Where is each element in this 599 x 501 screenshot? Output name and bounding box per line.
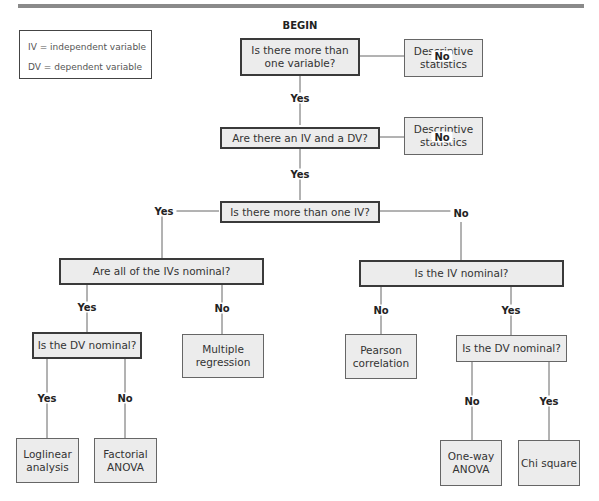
node-iv-and-dv: Are there an IV and a DV? xyxy=(220,127,380,149)
edge-label-q7-no: No xyxy=(461,396,482,407)
result-factorial-anova: Factorial ANOVA xyxy=(94,438,157,483)
result-pearson-correlation: Pearson correlation xyxy=(345,334,417,379)
edge-label-q6-no: No xyxy=(114,393,135,404)
node-all-ivs-nominal: Are all of the IVs nominal? xyxy=(59,258,264,285)
result-one-way-anova: One-way ANOVA xyxy=(440,440,502,486)
edge-label-q2-yes: Yes xyxy=(287,169,312,180)
edge-label-q7-yes: Yes xyxy=(536,396,561,407)
edge-label-q4-yes: Yes xyxy=(74,302,99,313)
edge-label-q3-no: No xyxy=(450,208,471,219)
edge-label-q4-no: No xyxy=(211,303,232,314)
result-multiple-regression: Multiple regression xyxy=(182,334,264,378)
result-loglinear-analysis: Loglinear analysis xyxy=(16,438,79,483)
edge-label-q2-no: No xyxy=(431,132,452,143)
begin-label: BEGIN xyxy=(280,20,321,31)
edge-label-q1-yes: Yes xyxy=(287,93,312,104)
node-more-than-one-variable: Is there more than one variable? xyxy=(240,38,360,76)
edge-label-q3-yes: Yes xyxy=(151,206,176,217)
node-dv-nominal-right: Is the DV nominal? xyxy=(456,335,567,362)
node-more-than-one-iv: Is there more than one IV? xyxy=(220,201,380,223)
edge-label-q5-yes: Yes xyxy=(498,305,523,316)
edge-label-q6-yes: Yes xyxy=(34,393,59,404)
edge-label-q1-no: No xyxy=(431,51,452,62)
edge-label-q5-no: No xyxy=(370,305,391,316)
node-iv-nominal: Is the IV nominal? xyxy=(359,260,564,287)
node-dv-nominal-left: Is the DV nominal? xyxy=(32,332,142,359)
result-chi-square: Chi square xyxy=(518,440,580,486)
